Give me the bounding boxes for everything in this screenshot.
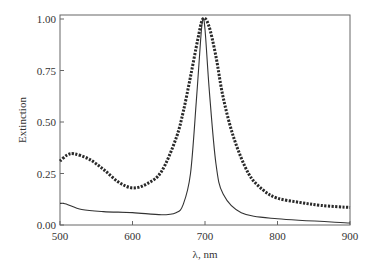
x-tick-label: 500 [52,230,69,242]
plot-frame [60,15,350,225]
y-tick-label: 0.50 [37,116,57,128]
series-narrow-line [60,18,350,223]
series-broad-line [60,18,350,207]
x-axis-label: λ, nm [193,248,218,260]
y-tick-label: 0.75 [37,65,57,77]
x-axis-ticks: 500600700800900 [52,221,359,242]
y-tick-label: 1.00 [37,13,57,25]
extinction-chart: 500600700800900 0.000.250.500.751.00 λ, … [0,0,374,267]
x-tick-label: 800 [269,230,286,242]
plot-area: 500600700800900 0.000.250.500.751.00 [37,13,359,242]
x-tick-label: 700 [197,230,214,242]
y-tick-label: 0.25 [37,168,57,180]
x-tick-label: 600 [124,230,141,242]
series-layer [60,18,350,223]
y-tick-label: 0.00 [37,219,57,231]
y-axis-label: Extinction [16,97,28,143]
x-tick-label: 900 [342,230,359,242]
